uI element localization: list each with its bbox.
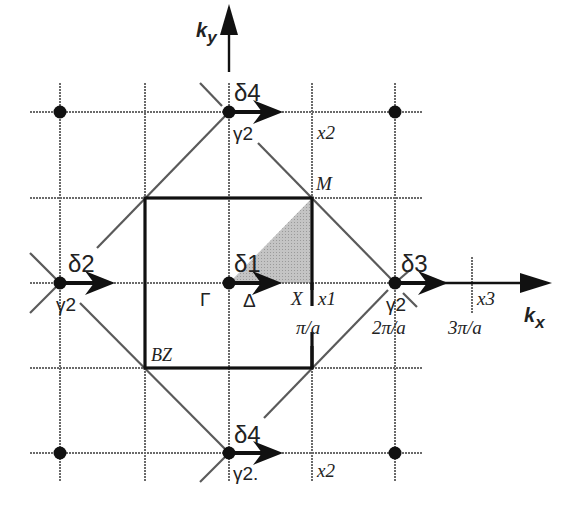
delta4-top-label: δ4 xyxy=(234,79,261,106)
three-pi-over-a-tick: 3π/a xyxy=(447,317,482,338)
gamma2-left-label: γ2 xyxy=(56,294,76,315)
gamma2-top-label: γ2 xyxy=(233,123,253,144)
delta1-label: δ1 xyxy=(234,250,261,277)
brillouin-zone-diagram: ky kx δ4 δ2 δ1 δ3 δ4 γ2 γ2 γ2 γ2. x2 x1 … xyxy=(0,0,568,505)
delta4-bottom-label: δ4 xyxy=(234,421,261,448)
x2-top-label: x2 xyxy=(316,122,335,143)
m-point-label: M xyxy=(315,173,333,194)
kx-label: kx xyxy=(524,304,546,332)
delta3-label: δ3 xyxy=(401,250,428,277)
x1-label: x1 xyxy=(317,288,336,309)
kx-axis xyxy=(440,273,552,293)
bz-label: BZ xyxy=(151,345,173,365)
x2-bottom-label: x2 xyxy=(316,460,335,481)
gamma2-right-label: γ2 xyxy=(386,294,406,315)
x3-label: x3 xyxy=(476,288,495,309)
ky-label: ky xyxy=(196,19,218,47)
pi-over-a-tick: π/a xyxy=(296,317,320,338)
delta-direction-label: Δ xyxy=(243,290,256,311)
x-point-label: X xyxy=(290,288,304,309)
ky-axis xyxy=(220,4,238,72)
gamma2-bottom-label: γ2. xyxy=(233,463,258,484)
two-pi-over-a-tick: 2π/a xyxy=(372,317,406,338)
gamma-point-label: Γ xyxy=(200,289,210,310)
delta2-label: δ2 xyxy=(68,250,95,277)
